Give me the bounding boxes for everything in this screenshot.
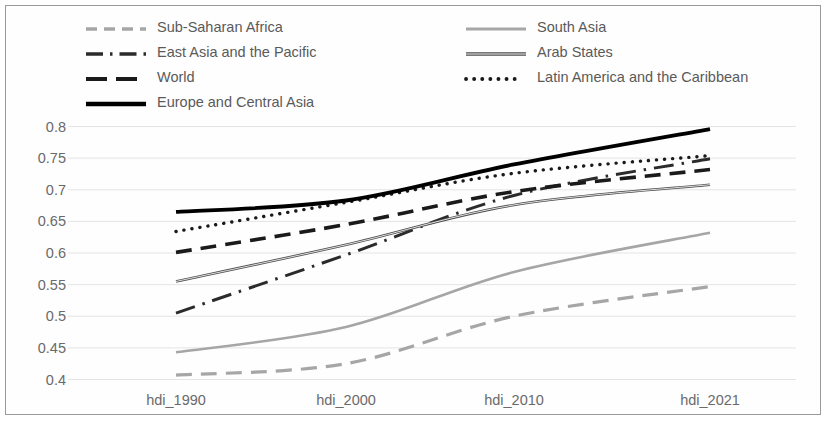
- x-axis-tick-label: hdi_1990: [146, 392, 206, 408]
- x-axis-tick-label: hdi_2021: [680, 392, 740, 408]
- x-axis-tick-labels: hdi_1990hdi_2000hdi_2010hdi_2021: [6, 384, 822, 414]
- y-axis-tick-label: 0.65: [14, 213, 66, 229]
- plot-area: 0.40.450.50.550.60.650.70.750.8 hdi_1990…: [6, 6, 822, 416]
- series-line: [176, 233, 710, 353]
- y-axis-tick-labels: 0.40.450.50.550.60.650.70.750.8: [14, 6, 66, 416]
- y-axis-tick-label: 0.75: [14, 150, 66, 166]
- series-lines: [6, 6, 822, 416]
- x-axis-tick-label: hdi_2010: [484, 392, 544, 408]
- series-line: [176, 287, 710, 376]
- y-axis-tick-label: 0.8: [14, 119, 66, 135]
- series-line: [176, 129, 710, 212]
- y-axis-tick-label: 0.5: [14, 308, 66, 324]
- y-axis-tick-label: 0.6: [14, 245, 66, 261]
- x-axis-tick-label: hdi_2000: [316, 392, 376, 408]
- y-axis-tick-label: 0.7: [14, 182, 66, 198]
- chart-frame: Sub-Saharan Africa East Asia and the Pac…: [5, 5, 821, 415]
- y-axis-tick-label: 0.45: [14, 340, 66, 356]
- series-line: [176, 185, 710, 282]
- y-axis-tick-label: 0.55: [14, 277, 66, 293]
- series-line-inner-highlight: [176, 185, 710, 282]
